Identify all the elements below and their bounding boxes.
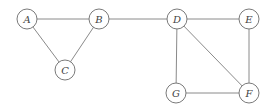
node-label: B <box>94 14 102 25</box>
node-c: C <box>55 60 75 80</box>
node-label: G <box>172 88 180 99</box>
node-g: G <box>166 83 186 103</box>
nodes: ABCDEFG <box>17 9 259 103</box>
node-a: A <box>17 9 37 29</box>
edge-d-g <box>176 19 177 93</box>
node-f: F <box>239 83 259 103</box>
edge-d-f <box>177 19 249 93</box>
node-e: E <box>239 9 259 29</box>
node-label: A <box>22 14 30 25</box>
node-label: E <box>244 14 253 25</box>
node-b: B <box>89 9 109 29</box>
node-label: F <box>245 88 254 99</box>
graph-diagram: ABCDEFG <box>0 0 272 112</box>
node-label: D <box>172 14 181 25</box>
node-d: D <box>167 9 187 29</box>
edges <box>27 19 249 93</box>
node-label: C <box>61 65 69 76</box>
